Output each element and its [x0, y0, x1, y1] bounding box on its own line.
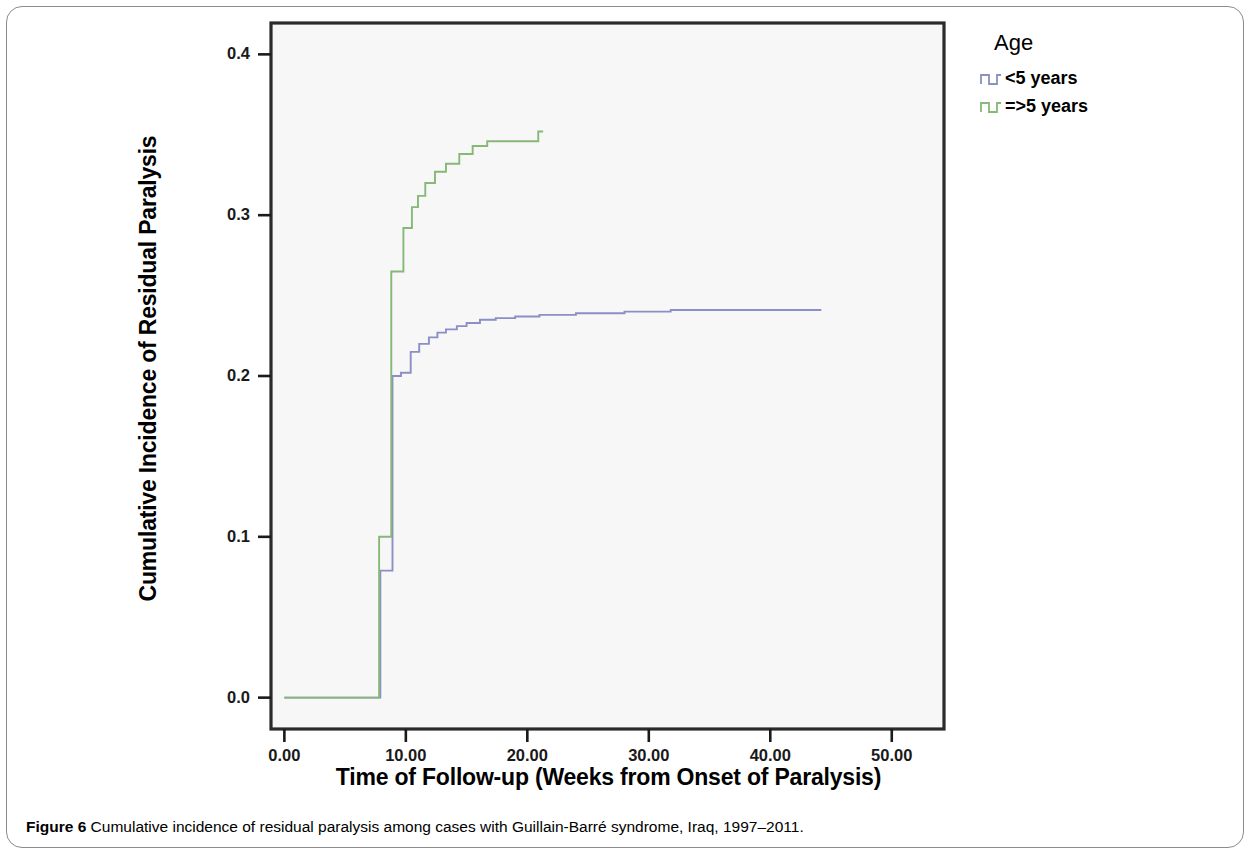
figure-caption: Figure 6 Cumulative incidence of residua…	[26, 818, 1226, 836]
y-tick-label: 0.4	[190, 44, 250, 63]
x-tick-label: 50.00	[852, 746, 932, 765]
legend-swatch-icon	[980, 70, 1002, 86]
y-tick-label: 0.0	[190, 688, 250, 707]
x-tick-label: 20.00	[487, 746, 567, 765]
caption-description: Cumulative incidence of residual paralys…	[91, 818, 804, 835]
x-tick-label: 0.00	[244, 746, 324, 765]
chart-area: Cumulative Incidence of Residual Paralys…	[0, 0, 1254, 815]
x-tick-label: 40.00	[730, 746, 810, 765]
y-tick-label: 0.3	[190, 205, 250, 224]
plot-background	[271, 23, 944, 729]
y-axis-title: Cumulative Incidence of Residual Paralys…	[135, 89, 162, 649]
x-tick-label: 10.00	[366, 746, 446, 765]
cumulative-incidence-chart	[0, 0, 1254, 815]
caption-figure-number: Figure 6	[26, 818, 86, 835]
legend-entry: <5 years	[980, 66, 1210, 90]
legend-entries: <5 years=>5 years	[980, 66, 1210, 118]
y-tick-label: 0.2	[190, 366, 250, 385]
legend: Age <5 years=>5 years	[980, 30, 1210, 122]
x-tick-label: 30.00	[609, 746, 689, 765]
x-axis-title: Time of Follow-up (Weeks from Onset of P…	[271, 764, 946, 791]
y-tick-label: 0.1	[190, 527, 250, 546]
legend-swatch-icon	[980, 98, 1002, 114]
legend-entry-label: <5 years	[1005, 68, 1078, 89]
legend-title: Age	[994, 30, 1210, 56]
legend-entry-label: =>5 years	[1005, 96, 1088, 117]
legend-entry: =>5 years	[980, 94, 1210, 118]
